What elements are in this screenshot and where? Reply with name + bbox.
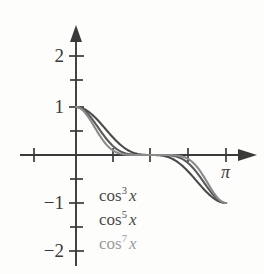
y-tick-label-neg-1: −1 <box>36 193 64 212</box>
legend-base-cos3: cos <box>99 186 122 205</box>
legend-base-cos5: cos <box>99 210 122 229</box>
x-tick-label-pi: π <box>221 163 230 181</box>
y-tick-label-2: 2 <box>46 46 64 65</box>
legend-variable-cos7: x <box>129 234 137 253</box>
legend-base-cos7: cos <box>99 234 122 253</box>
y-tick-label-1: 1 <box>46 97 64 116</box>
legend-power-cos7: 7 <box>122 233 127 244</box>
x-axis-arrowhead <box>238 149 257 161</box>
y-tick-label-neg-2: −2 <box>36 241 64 260</box>
legend-item-cos-cubed: cos3x <box>99 187 136 204</box>
legend-item-cos-seventh: cos7x <box>99 235 136 252</box>
figure-graph-of-cos-powers: 2 1 −1 −2 π cos3x cos5x cos7x <box>0 0 264 274</box>
legend-variable-cos3: x <box>129 186 137 205</box>
legend-variable-cos5: x <box>129 210 137 229</box>
legend-item-cos-fifth: cos5x <box>99 211 136 228</box>
legend-power-cos3: 3 <box>122 185 127 196</box>
legend-power-cos5: 5 <box>122 209 127 220</box>
y-axis-arrowhead <box>70 25 82 42</box>
plot-canvas <box>0 0 264 274</box>
